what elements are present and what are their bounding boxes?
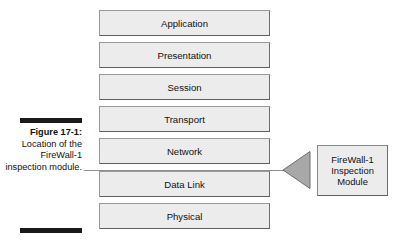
- osi-layer-label: Physical: [100, 211, 269, 222]
- osi-layer-label: Transport: [100, 114, 269, 125]
- firewall-inspection-module-box: FireWall-1 Inspection Module: [317, 145, 388, 196]
- osi-layer-box: Application: [99, 10, 270, 36]
- osi-layer-label: Presentation: [100, 50, 269, 61]
- caption-rule-bottom: [20, 228, 82, 233]
- osi-layer-label: Session: [100, 82, 269, 93]
- osi-layer-label: Application: [100, 18, 269, 29]
- osi-layer-box: Session: [99, 74, 270, 100]
- caption-rule-top: [20, 118, 82, 123]
- firewall-module-label: FireWall-1 Inspection Module: [318, 153, 387, 187]
- osi-layer-label: Network: [100, 146, 269, 157]
- caption-body: Location of the FireWall-1 inspection mo…: [0, 139, 82, 174]
- osi-layer-box: Physical: [99, 203, 270, 229]
- figure-canvas: Figure 17-1: Location of the FireWall-1 …: [0, 0, 414, 246]
- caption-title: Figure 17-1:: [0, 127, 82, 139]
- osi-layer-box: Data Link: [99, 171, 270, 197]
- figure-caption-block: Figure 17-1: Location of the FireWall-1 …: [0, 115, 86, 235]
- osi-layer-box: Transport: [99, 106, 270, 132]
- osi-layer-box: Network: [99, 138, 270, 164]
- osi-layer-label: Data Link: [100, 179, 269, 190]
- inspection-arrow-icon: [283, 151, 311, 189]
- osi-layer-box: Presentation: [99, 42, 270, 68]
- caption-text: Figure 17-1: Location of the FireWall-1 …: [0, 127, 82, 173]
